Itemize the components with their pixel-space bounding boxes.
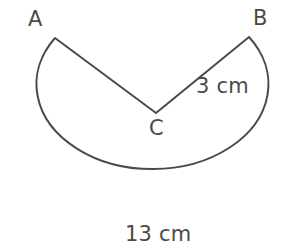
sector-outline-path [36, 37, 268, 169]
figure-canvas [0, 0, 283, 252]
vertex-label-b: B [253, 8, 267, 29]
radius-measurement-label: 3 cm [196, 76, 249, 97]
geometry-figure: A B C 3 cm 13 cm [0, 0, 283, 252]
vertex-label-a: A [28, 9, 42, 30]
vertex-label-c: C [149, 118, 164, 139]
diameter-measurement-label: 13 cm [125, 224, 191, 245]
